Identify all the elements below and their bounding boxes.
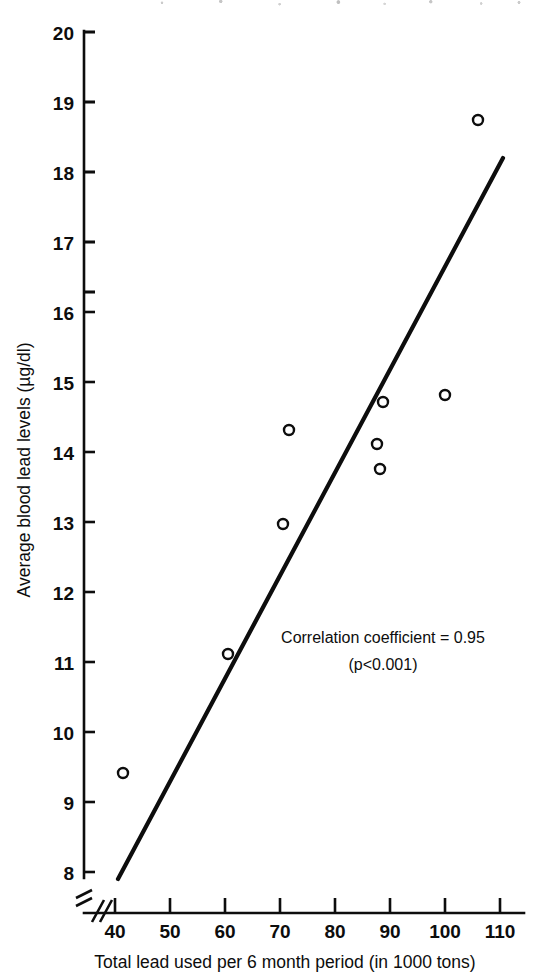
x-tick-label-60: 60 <box>214 921 235 942</box>
figure-scatter-plot: 20 19 18 17 16 15 14 13 12 11 10 9 8 40 … <box>0 0 552 975</box>
y-tick-label-10: 10 <box>53 723 74 744</box>
x-tick-label-110: 110 <box>485 921 516 942</box>
regression-line <box>118 158 503 879</box>
data-point <box>473 115 483 125</box>
y-tick-label-14: 14 <box>53 443 75 464</box>
data-point <box>223 649 233 659</box>
data-point <box>372 439 382 449</box>
data-point <box>278 519 288 529</box>
y-tick-label-12: 12 <box>53 583 74 604</box>
y-tick-label-8: 8 <box>63 863 74 884</box>
x-axis-break-icon <box>92 900 112 922</box>
y-tick-label-9: 9 <box>63 793 74 814</box>
x-tick-label-50: 50 <box>159 921 180 942</box>
x-tick-label-70: 70 <box>269 921 290 942</box>
data-point <box>118 768 128 778</box>
y-tick-label-20: 20 <box>53 23 74 44</box>
x-tick-group <box>115 898 500 913</box>
correlation-annotation-line1: Correlation coefficient = 0.95 <box>281 629 485 646</box>
y-axis-title: Average blood lead levels (µg/dl) <box>14 343 34 598</box>
data-point <box>440 390 450 400</box>
y-tick-label-11: 11 <box>54 653 75 674</box>
x-axis-title: Total lead used per 6 month period (in 1… <box>94 952 475 972</box>
y-tick-label-17: 17 <box>53 233 74 254</box>
x-tick-label-80: 80 <box>324 921 345 942</box>
data-point-group <box>118 115 483 778</box>
y-tick-label-18: 18 <box>53 163 74 184</box>
data-point <box>284 425 294 435</box>
y-tick-label-19: 19 <box>53 93 74 114</box>
x-tick-label-40: 40 <box>104 921 125 942</box>
x-tick-label-90: 90 <box>379 921 400 942</box>
y-tick-group <box>84 32 95 872</box>
plot-canvas: 20 19 18 17 16 15 14 13 12 11 10 9 8 40 … <box>0 0 552 975</box>
data-point <box>378 397 388 407</box>
data-point <box>375 464 385 474</box>
correlation-annotation-line2: (p<0.001) <box>349 656 418 673</box>
y-axis-break-icon <box>76 890 92 906</box>
y-tick-label-15: 15 <box>53 373 75 394</box>
y-tick-label-16: 16 <box>53 303 74 324</box>
x-tick-label-100: 100 <box>429 921 461 942</box>
y-tick-label-13: 13 <box>53 513 74 534</box>
